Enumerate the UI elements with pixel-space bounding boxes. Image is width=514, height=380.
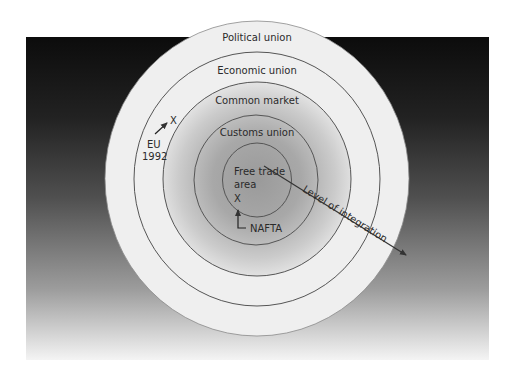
label-economic-union: Economic union: [217, 65, 297, 76]
eu-label-line2: 1992: [142, 151, 167, 162]
label-customs-union: Customs union: [220, 127, 295, 138]
nafta-label: NAFTA: [250, 223, 282, 234]
eu-label-line1: EU: [147, 139, 161, 150]
label-common-market: Common market: [215, 95, 299, 106]
ring-common-market: [163, 82, 351, 276]
eu-x-mark: X: [170, 115, 177, 126]
label-free-trade-line1: Free trade: [234, 166, 285, 177]
label-free-trade-line2: area: [234, 179, 256, 190]
integration-diagram: Political union Economic union Common ma…: [0, 0, 514, 380]
label-political-union: Political union: [222, 32, 292, 43]
nafta-x-mark: X: [234, 193, 241, 204]
